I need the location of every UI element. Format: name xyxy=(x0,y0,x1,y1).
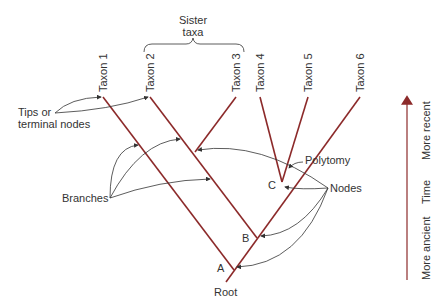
time-axis-ancient-label: More ancient xyxy=(420,216,432,280)
nodes-arrow-to-a xyxy=(237,188,328,267)
taxon-6-label: Taxon 6 xyxy=(354,53,366,92)
branches-arrow-2 xyxy=(110,139,180,198)
taxon-4-label: Taxon 4 xyxy=(254,53,266,92)
taxon-1-label: Taxon 1 xyxy=(97,53,109,92)
node-c-label: C xyxy=(268,179,276,191)
branches-label: Branches xyxy=(62,192,109,204)
node-a-label: A xyxy=(217,262,225,274)
root-label: Root xyxy=(214,286,237,298)
tips-label-line1: Tips or xyxy=(18,106,52,118)
sister-taxa-brace xyxy=(144,38,244,52)
time-axis-time-label: Time xyxy=(420,180,432,204)
taxon-2-label: Taxon 2 xyxy=(144,53,156,92)
polytomy-arrow xyxy=(289,162,303,168)
phylogenetic-tree-diagram: Taxon 1 Taxon 2 Taxon 3 Taxon 4 Taxon 5 … xyxy=(0,0,440,302)
sister-taxa-label-line1: Sister xyxy=(179,14,207,26)
nodes-arrow-to-b xyxy=(261,188,328,236)
taxon-3-label: Taxon 3 xyxy=(230,53,242,92)
tree-branches xyxy=(103,97,360,282)
tips-label-line2: terminal nodes xyxy=(18,118,91,130)
branches-arrow-3 xyxy=(110,179,210,198)
polytomy-label: Polytomy xyxy=(305,154,351,166)
nodes-label: Nodes xyxy=(330,182,362,194)
time-axis-recent-label: More recent xyxy=(420,101,432,160)
tips-arrow-1 xyxy=(55,97,101,113)
node-b-label: B xyxy=(242,232,249,244)
sister-taxa-label-line2: taxa xyxy=(183,26,205,38)
tips-arrow-2 xyxy=(55,97,148,113)
nodes-arrow-to-c xyxy=(285,187,328,189)
taxon-5-label: Taxon 5 xyxy=(302,53,314,92)
